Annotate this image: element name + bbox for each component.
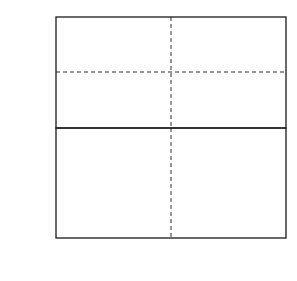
chart-svg <box>0 0 297 281</box>
iv-mixing-figure <box>0 0 297 281</box>
